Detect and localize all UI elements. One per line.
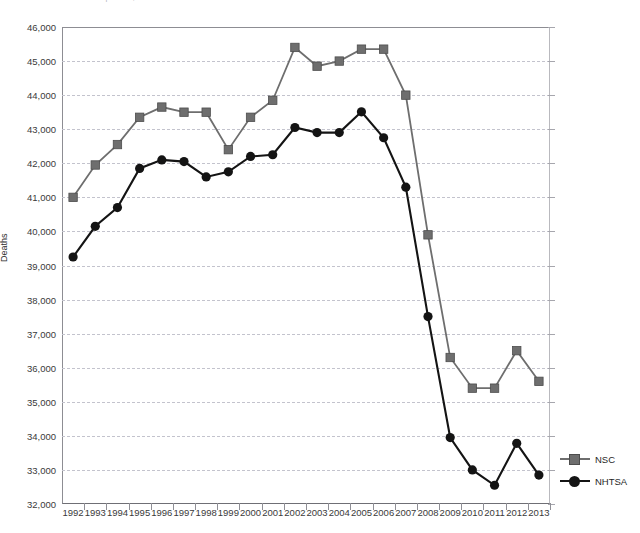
data-point — [534, 470, 543, 479]
right-axis-tick — [548, 27, 555, 28]
y-axis-tick-label: 38,000 — [27, 294, 56, 305]
x-axis-tick-label: 1994 — [107, 507, 128, 518]
x-axis-tick-label: 1996 — [151, 507, 172, 518]
y-axis-tick-label: 36,000 — [27, 362, 56, 373]
chart-page: Motor Vehicle Deaths Comparison, NSC vs … — [0, 0, 640, 533]
data-point — [535, 377, 543, 385]
data-point — [312, 128, 321, 137]
x-axis-tick-label: 1992 — [63, 507, 84, 518]
y-axis-tick-label: 45,000 — [27, 56, 56, 67]
data-point — [268, 150, 277, 159]
right-axis-tick — [548, 61, 555, 62]
legend-square-icon — [560, 452, 590, 466]
x-axis-tick-label: 1995 — [129, 507, 150, 518]
data-point — [446, 433, 455, 442]
x-axis-tick-label: 1999 — [218, 507, 239, 518]
data-point — [313, 62, 321, 70]
y-axis-title: Deaths — [0, 233, 9, 262]
right-axis-tick — [548, 197, 555, 198]
right-axis-tick — [548, 163, 555, 164]
data-point — [68, 252, 77, 261]
legend-label: NSC — [590, 454, 615, 465]
data-point — [423, 312, 432, 321]
legend-label: NHTSA — [590, 476, 627, 487]
right-axis-tick — [548, 436, 555, 437]
y-axis-tick-label: 34,000 — [27, 430, 56, 441]
data-point — [91, 161, 99, 169]
data-point — [269, 96, 277, 104]
plot-area — [62, 27, 550, 504]
right-axis-tick — [548, 470, 555, 471]
page-title: Motor Vehicle Deaths Comparison, NSC vs … — [8, 0, 308, 3]
data-point — [180, 108, 188, 116]
data-point — [135, 164, 144, 173]
legend-item-nhtsa[interactable]: NHTSA — [560, 470, 638, 492]
data-point — [291, 43, 299, 51]
right-axis-tick — [548, 266, 555, 267]
y-axis-tick-label: 43,000 — [27, 124, 56, 135]
right-axis-tick — [548, 231, 555, 232]
x-axis-tick-label: 2005 — [351, 507, 372, 518]
data-point — [468, 384, 476, 392]
data-point — [490, 481, 499, 490]
data-point — [91, 222, 100, 231]
right-axis-tick — [548, 129, 555, 130]
right-axis-tick — [548, 334, 555, 335]
x-axis-tick-mark — [550, 503, 551, 510]
x-axis-tick-label: 2013 — [528, 507, 549, 518]
x-axis-tick-label: 2011 — [484, 507, 504, 518]
x-axis-tick-label: 2010 — [462, 507, 483, 518]
x-axis-tick-label: 1997 — [173, 507, 194, 518]
y-axis-tick-label: 42,000 — [27, 158, 56, 169]
data-point — [157, 155, 166, 164]
x-axis-tick-label: 2007 — [395, 507, 416, 518]
x-axis-tick-label: 2012 — [506, 507, 527, 518]
series-nhtsa — [68, 107, 543, 490]
x-axis-tick-label: 2003 — [307, 507, 328, 518]
data-point — [202, 172, 211, 181]
data-point — [401, 183, 410, 192]
data-point — [290, 123, 299, 132]
x-axis-tick-labels: 1992199319941995199619971998199920002001… — [62, 507, 550, 527]
data-point — [513, 346, 521, 354]
data-point — [357, 45, 365, 53]
data-point — [69, 193, 77, 201]
data-point — [379, 45, 387, 53]
y-axis-tick-label: 41,000 — [27, 192, 56, 203]
x-axis-tick-label: 2004 — [329, 507, 350, 518]
data-point — [113, 140, 121, 148]
data-point — [158, 103, 166, 111]
series-line — [73, 47, 539, 388]
x-axis-tick-label: 2009 — [440, 507, 461, 518]
data-point — [224, 145, 232, 153]
data-point — [335, 128, 344, 137]
y-axis-tick-label: 44,000 — [27, 90, 56, 101]
data-point — [113, 203, 122, 212]
y-axis-tick-label: 39,000 — [27, 260, 56, 271]
data-point — [357, 107, 366, 116]
data-point — [246, 152, 255, 161]
data-point — [468, 465, 477, 474]
data-point — [224, 167, 233, 176]
y-axis-tick-label: 33,000 — [27, 464, 56, 475]
x-axis-tick-label: 2001 — [262, 507, 283, 518]
x-axis-tick-label: 1998 — [196, 507, 217, 518]
data-point — [135, 113, 143, 121]
right-axis-tick — [548, 300, 555, 301]
right-axis-tick — [548, 95, 555, 96]
y-axis-tick-label: 35,000 — [27, 396, 56, 407]
y-axis-tick-label: 46,000 — [27, 22, 56, 33]
data-point — [246, 113, 254, 121]
x-axis-tick-label: 2000 — [240, 507, 261, 518]
data-point — [424, 231, 432, 239]
data-point — [335, 57, 343, 65]
chart-legend: NSCNHTSA — [560, 448, 638, 492]
y-axis-tick-labels: 46,00045,00044,00043,00042,00041,00040,0… — [0, 27, 56, 504]
data-point — [402, 91, 410, 99]
legend-item-nsc[interactable]: NSC — [560, 448, 638, 470]
x-axis-tick-label: 2002 — [284, 507, 305, 518]
x-axis-tick-label: 2008 — [417, 507, 438, 518]
y-axis-tick-label: 37,000 — [27, 328, 56, 339]
data-point — [202, 108, 210, 116]
data-point — [446, 353, 454, 361]
